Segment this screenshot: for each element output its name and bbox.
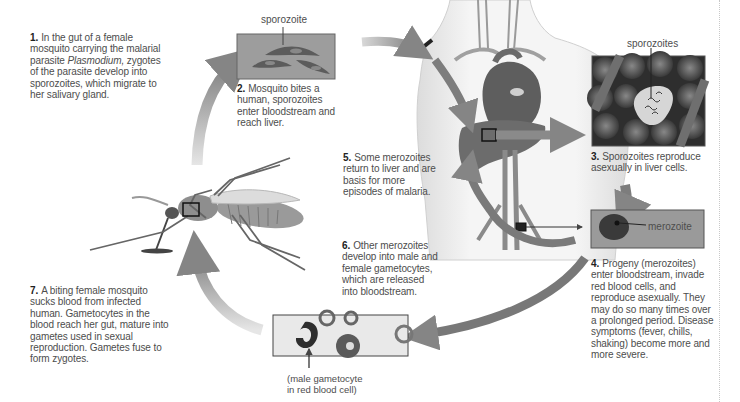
step-2-number: 2. [237, 83, 245, 94]
step-7-number: 7. [30, 285, 38, 296]
step-4-number: 4. [591, 258, 599, 269]
step-1-italic: Plasmodium, [67, 55, 124, 66]
step-7-caption: 7.A biting female mosquito sucks blood f… [30, 285, 170, 365]
step-5-caption: 5.Some merozoites return to liver and ar… [343, 152, 438, 198]
step-5-text: Some merozoites return to liver and are … [343, 152, 436, 197]
sporozoite-label: sporozoite [261, 14, 307, 25]
sporozoites-label: sporozoites [627, 38, 678, 49]
page-margin-divider [719, 0, 720, 402]
step-7-text: A biting female mosquito sucks blood fro… [30, 285, 169, 364]
gametocyte-caption: (male gametocyte in red blood cell) [287, 373, 367, 395]
step-3-caption: 3.Sporozoites reproduce asexually in liv… [591, 151, 716, 174]
merozoite-label: merozoite [648, 221, 692, 232]
step-4-caption: 4.Progeny (merozoites) enter bloodstream… [591, 258, 717, 361]
step-1-number: 1. [30, 32, 38, 43]
gametocyte-panel [273, 311, 412, 368]
step-6-caption: 6.Other merozoites develop into male and… [342, 240, 442, 297]
step-6-text: Other merozoites develop into male and f… [342, 240, 438, 297]
step-3-text: Sporozoites reproduce asexually in liver… [591, 151, 701, 173]
step-6-number: 6. [342, 240, 350, 251]
liver-cells-panel [587, 48, 705, 146]
sporozoite-panel [237, 27, 335, 79]
step-5-number: 5. [343, 152, 351, 163]
malaria-life-cycle-diagram: sporozoite sporozoites merozoite (male g… [0, 0, 740, 402]
step-4-text: Progeny (merozoites) enter bloodstream, … [591, 258, 713, 360]
step-3-number: 3. [591, 151, 599, 162]
step-1-caption: 1.In the gut of a female mosquito carryi… [30, 32, 170, 100]
step-2-text: Mosquito bites a human, sporozoites ente… [237, 83, 335, 128]
step-2-caption: 2.Mosquito bites a human, sporozoites en… [237, 83, 337, 129]
